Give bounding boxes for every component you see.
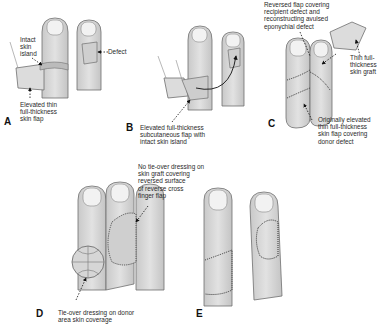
panel-label-a: A — [4, 116, 11, 127]
panel-d-drawing — [72, 182, 164, 300]
panel-e-drawing — [204, 188, 282, 306]
annotation-defect: Defect — [108, 48, 126, 55]
panel-a-drawing — [10, 18, 108, 98]
annotation-thin-skin-graft: Thin full- thickness skin graft — [350, 54, 377, 76]
panel-b-drawing — [158, 26, 244, 122]
annotation-intact-skin-island: Intact skin island — [20, 36, 37, 58]
panel-label-b: B — [126, 122, 133, 133]
annotation-no-tie-over-dressing: No tie-over dressing on skin graft cover… — [138, 163, 204, 199]
panel-label-d: D — [36, 308, 43, 319]
annotation-elevated-thin-flap: Elevated thin full-thickness skin flap — [20, 101, 57, 123]
panel-label-e: E — [196, 308, 203, 319]
annotation-tie-over-dressing: Tie-over dressing on donor area skin cov… — [58, 309, 134, 323]
panel-label-c: C — [268, 118, 275, 129]
annotation-reversed-flap: Reversed flap covering recipient defect … — [264, 1, 329, 30]
annotation-elevated-subcutaneous-flap: Elevated full-thickness subcutaneous fla… — [140, 124, 205, 146]
annotation-originally-elevated-flap: Originally elevated thin full-thickness … — [318, 116, 371, 145]
